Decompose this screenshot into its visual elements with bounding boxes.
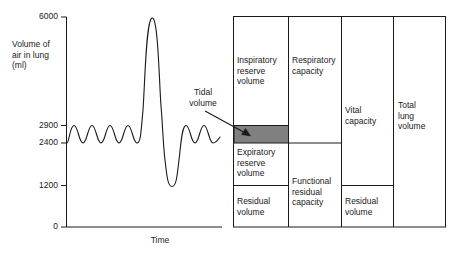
y-tick-label-0: 0 [8, 222, 58, 231]
y-axis-title: Volume of air in lung (ml) [12, 39, 66, 71]
cell-respiratory-capacity: Respiratory capacity [292, 55, 342, 76]
cell-residual-volume-col1: Residual volume [237, 196, 287, 217]
y-tick-label-1200: 1200 [8, 181, 58, 190]
cell-functional-residual-capacity: Functional residual capacity [292, 176, 342, 208]
cell-residual-volume-col3: Residual volume [345, 196, 395, 217]
tidal-volume-annotation: Tidal volume [178, 87, 228, 108]
y-tick-label-6000: 6000 [8, 12, 58, 21]
y-tick-label-2400: 2400 [8, 138, 58, 147]
cell-total-lung-volume: Total lung volume [398, 100, 446, 132]
cell-expiratory-reserve-volume: Expiratory reserve volume [237, 147, 287, 179]
cell-inspiratory-reserve-volume: Inspiratory reserve volume [237, 55, 287, 87]
lung-volumes-diagram: Volume of air in lung (ml) 6000 2900 240… [0, 0, 458, 256]
diagram-vector-layer [0, 0, 458, 256]
cell-vital-capacity: Vital capacity [345, 105, 395, 126]
x-axis-title: Time [130, 236, 190, 245]
y-tick-label-2900: 2900 [8, 121, 58, 130]
tidal-volume-leader-line [205, 111, 249, 135]
